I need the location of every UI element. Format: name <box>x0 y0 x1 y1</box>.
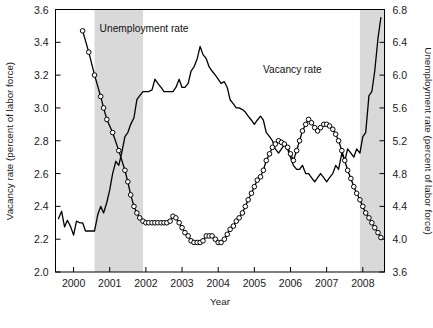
series-marker <box>177 220 182 225</box>
x-tick-label: 2004 <box>207 277 231 289</box>
left-tick-label: 3.6 <box>34 4 49 16</box>
left-tick-label: 2.4 <box>34 200 49 212</box>
series-marker <box>358 198 363 203</box>
series-marker <box>345 168 350 173</box>
series-marker <box>222 237 227 242</box>
series-marker <box>258 175 263 180</box>
right-tick-label: 5.2 <box>393 135 408 147</box>
series-marker <box>180 225 185 230</box>
series-marker <box>361 204 366 209</box>
series-marker <box>300 129 305 134</box>
series-marker <box>288 152 293 157</box>
right-tick-label: 6.8 <box>393 4 408 16</box>
series-marker <box>80 29 85 34</box>
figure-container: 200020012002200320042005200620072008 2.0… <box>0 0 433 328</box>
series-marker <box>225 232 230 237</box>
left-tick-label: 2.2 <box>34 233 49 245</box>
series-marker <box>231 224 236 229</box>
series-marker <box>201 239 206 244</box>
series-marker <box>101 106 106 111</box>
vacancy-unemployment-chart: 200020012002200320042005200620072008 2.0… <box>0 0 433 328</box>
x-tick-label: 2002 <box>134 277 158 289</box>
series-marker <box>86 50 91 55</box>
shaded-band-recession-2001 <box>95 10 143 273</box>
series-marker <box>126 179 131 184</box>
left-axis-title: Vacancy rate (percent of labor force) <box>4 62 15 220</box>
annotation-vacancy-rate: Vacancy rate <box>263 64 322 75</box>
right-tick-label: 4.8 <box>393 168 408 180</box>
series-marker <box>249 191 254 196</box>
series-marker <box>243 204 248 209</box>
series-marker <box>252 184 257 189</box>
x-tick-label: 2001 <box>98 277 122 289</box>
series-marker <box>285 145 290 150</box>
right-tick-label: 4.0 <box>393 233 408 245</box>
series-marker <box>267 152 272 157</box>
right-tick-label: 5.6 <box>393 102 408 114</box>
right-tick-label: 6.4 <box>393 36 408 48</box>
series-marker <box>246 198 251 203</box>
series-marker <box>309 120 314 125</box>
series-marker <box>331 127 336 132</box>
series-marker <box>379 235 384 240</box>
annotation-unemployment-rate: Unemployment rate <box>100 23 189 34</box>
series-marker <box>363 211 368 216</box>
series-marker <box>294 148 299 153</box>
series-marker <box>261 168 266 173</box>
series-marker <box>135 211 140 216</box>
series-marker <box>110 130 115 135</box>
series-marker <box>237 216 242 221</box>
series-marker <box>372 225 377 230</box>
right-tick-label: 3.6 <box>393 266 408 278</box>
series-marker <box>240 211 245 216</box>
right-tick-label: 4.4 <box>393 200 408 212</box>
right-axis-title: Unemployment rate (percent of labor forc… <box>423 47 433 234</box>
series-marker <box>376 230 381 235</box>
x-tick-label: 2005 <box>243 277 267 289</box>
series-marker <box>297 138 302 143</box>
series-marker <box>174 216 179 221</box>
x-tick-label: 2006 <box>279 277 303 289</box>
series-marker <box>168 219 173 224</box>
left-tick-label: 2.0 <box>34 266 49 278</box>
x-tick-label: 2008 <box>351 277 375 289</box>
series-marker <box>291 158 296 163</box>
series-marker <box>303 122 308 127</box>
series-marker <box>333 132 338 137</box>
series-marker <box>264 158 269 163</box>
series-marker <box>186 234 191 239</box>
series-marker <box>367 216 372 221</box>
left-tick-label: 3.2 <box>34 69 49 81</box>
series-marker <box>98 94 103 99</box>
series-marker <box>351 184 356 189</box>
series-marker <box>342 158 347 163</box>
left-tick-label: 3.0 <box>34 102 49 114</box>
x-tick-label: 2007 <box>315 277 339 289</box>
left-tick-label: 2.8 <box>34 135 49 147</box>
series-marker <box>128 193 133 198</box>
x-tick-label: 2003 <box>170 277 194 289</box>
series-marker <box>116 148 121 153</box>
left-tick-label: 2.6 <box>34 168 49 180</box>
left-tick-label: 3.4 <box>34 36 49 48</box>
series-marker <box>340 148 345 153</box>
series-marker <box>370 220 375 225</box>
series-marker <box>92 73 97 78</box>
series-marker <box>132 204 137 209</box>
series-marker <box>123 168 128 173</box>
series-marker <box>349 176 354 181</box>
x-tick-label: 2000 <box>62 277 86 289</box>
series-marker <box>336 138 341 143</box>
series-marker <box>105 117 110 122</box>
x-axis-title: Year <box>210 296 231 307</box>
series-marker <box>354 191 359 196</box>
right-tick-label: 6.0 <box>393 69 408 81</box>
